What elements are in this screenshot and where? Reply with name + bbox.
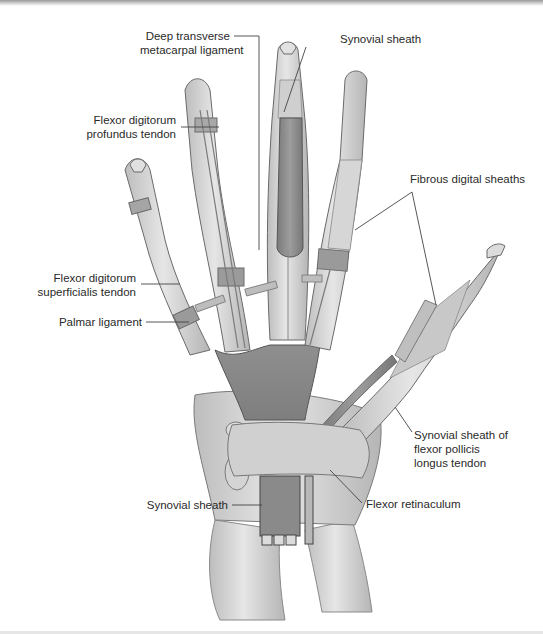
label-flexor-digitorum-superficialis-tendon: Flexor digitorum superficialis tendon: [15, 271, 136, 299]
label-synovial-sheath-bottom: Synovial sheath: [120, 498, 228, 512]
label-deep-transverse-metacarpal-ligament: Deep transverse metacarpal ligament: [140, 29, 230, 57]
index-finger: [305, 71, 367, 350]
middle-finger: [267, 42, 308, 340]
carpal-tunnel-bundle: [260, 476, 313, 545]
label-flexor-digitorum-profundus-tendon: Flexor digitorum profundus tendon: [70, 113, 176, 141]
label-synovial-sheath-fpl: Synovial sheath of flexor pollicis longu…: [414, 428, 508, 470]
flexor-retinaculum: [228, 422, 370, 478]
label-palmar-ligament: Palmar ligament: [40, 315, 142, 329]
label-fibrous-digital-sheaths: Fibrous digital sheaths: [410, 172, 525, 186]
label-synovial-sheath-top: Synovial sheath: [340, 32, 421, 46]
label-flexor-retinaculum: Flexor retinaculum: [366, 497, 461, 511]
